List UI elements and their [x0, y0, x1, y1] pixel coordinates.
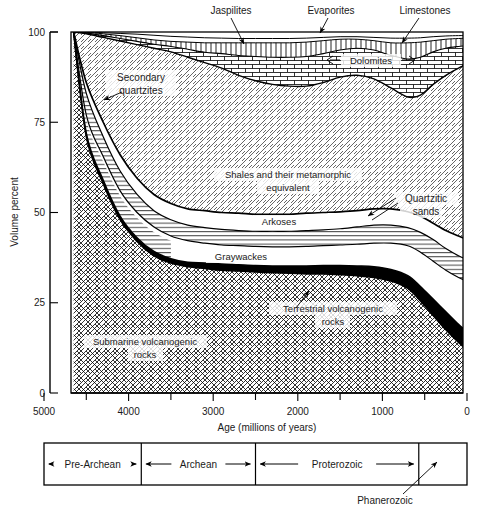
- y-tick-marks: [50, 32, 58, 393]
- label-secondary-quartzites: Secondary quartzites: [104, 70, 176, 100]
- y-tick-label-100: 100: [28, 27, 45, 38]
- y-axis-title: Volume percent: [9, 177, 20, 247]
- timeline-label-pre-archean: Pre-Archean: [65, 459, 121, 470]
- label-limestones: Limestones: [399, 5, 450, 16]
- label-secondary-quartzites-line2: quartzites: [119, 85, 162, 96]
- x-tick-label-3000: 3000: [202, 406, 225, 417]
- x-tick-marks: [44, 393, 467, 401]
- y-tick-label-25: 25: [34, 297, 46, 308]
- label-phanerozoic: Phanerozoic: [357, 495, 413, 506]
- leader-phanerozoic: [403, 462, 437, 494]
- y-tick-labels: 0255075100: [28, 27, 45, 399]
- label-quartzitic-sands-line1: Quartzitic: [405, 193, 447, 204]
- geologic-volume-percent-chart: 0255075100 Volume percent 50004000300020…: [0, 0, 480, 513]
- x-tick-label-5000: 5000: [33, 406, 56, 417]
- x-tick-labels: 500040003000200010000: [33, 406, 470, 417]
- timeline-era-labels: Pre-ArcheanArcheanProterozoic: [65, 459, 363, 470]
- label-jaspilites: Jaspilites: [210, 5, 251, 16]
- label-submarine-line1: Submarine volcanogenic: [93, 336, 197, 347]
- label-secondary-quartzites-line1: Secondary: [117, 72, 165, 83]
- x-axis: 500040003000200010000 Age (millions of y…: [33, 393, 470, 433]
- x-axis-title: Age (millions of years): [218, 422, 317, 433]
- y-axis: 0255075100 Volume percent: [9, 27, 58, 399]
- label-shales-line1: Shales and their metamorphic: [225, 169, 351, 180]
- x-tick-label-2000: 2000: [287, 406, 310, 417]
- x-tick-label-1000: 1000: [371, 406, 394, 417]
- timeline-label-proterozoic: Proterozoic: [312, 459, 363, 470]
- chart-svg: 0255075100 Volume percent 50004000300020…: [0, 0, 480, 513]
- label-graywackes: Graywackes: [206, 250, 276, 263]
- label-graywackes-text: Graywackes: [215, 251, 268, 262]
- leader-evaporites: [320, 18, 328, 33]
- label-terrestrial-line2: rocks: [322, 316, 345, 327]
- y-tick-label-75: 75: [34, 117, 46, 128]
- y-tick-label-50: 50: [34, 207, 46, 218]
- x-tick-label-0: 0: [464, 406, 470, 417]
- label-submarine-line2: rocks: [134, 349, 157, 360]
- label-arkoses: Arkoses: [253, 215, 306, 228]
- geologic-timeline: Pre-ArcheanArcheanProterozoic Phanerozoi…: [44, 443, 467, 506]
- label-arkoses-text: Arkoses: [262, 216, 297, 227]
- timeline-label-archean: Archean: [180, 459, 217, 470]
- phanerozoic-callout: Phanerozoic: [357, 462, 437, 506]
- label-evaporites: Evaporites: [307, 5, 354, 16]
- label-shales-line2: equivalent: [266, 182, 310, 193]
- label-dolomites-text: Dolomites: [350, 55, 392, 66]
- label-quartzitic-sands-line2: sands: [413, 206, 440, 217]
- x-tick-label-4000: 4000: [117, 406, 140, 417]
